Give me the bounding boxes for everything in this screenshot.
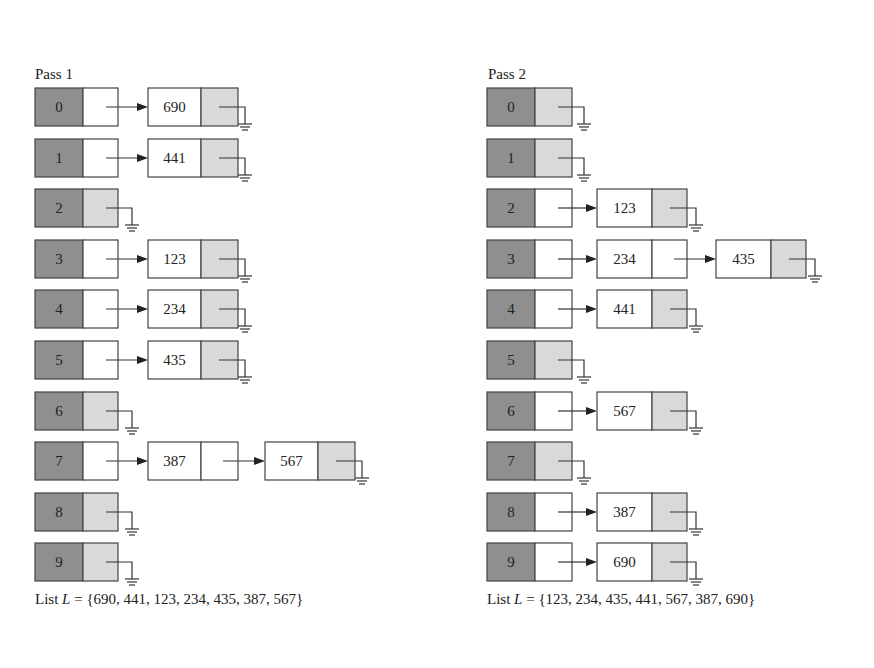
bucket-row-0: 0 (487, 88, 591, 130)
arrowhead-icon (137, 154, 148, 162)
bucket-row-1: 1 (487, 139, 591, 181)
bucket-index: 4 (55, 301, 63, 317)
bucket-row-5: 5435 (35, 341, 252, 383)
list-node: 234 (148, 290, 252, 332)
list-prefix: List (487, 591, 514, 607)
node-value: 567 (280, 453, 303, 469)
bucket-row-9: 9690 (487, 543, 703, 585)
arrowhead-icon (254, 457, 265, 465)
bucket-row-5: 5 (487, 341, 591, 383)
node-value: 690 (613, 554, 636, 570)
list-node: 441 (597, 290, 703, 332)
bucket-row-8: 8 (35, 493, 139, 535)
bucket-index: 6 (55, 403, 63, 419)
bucket-index: 7 (55, 453, 63, 469)
list-node: 690 (597, 543, 703, 585)
list-node: 567 (265, 442, 369, 484)
node-value: 567 (613, 403, 636, 419)
node-value: 441 (163, 150, 186, 166)
list-values: = {690, 441, 123, 234, 435, 387, 567} (74, 591, 303, 607)
node-value: 441 (613, 301, 636, 317)
bucket-index: 2 (507, 200, 515, 216)
bucket-index: 2 (55, 200, 63, 216)
bucket-index: 3 (507, 251, 515, 267)
bucket-index: 9 (507, 554, 515, 570)
list-node: 387 (597, 493, 703, 535)
bucket-index: 6 (507, 403, 515, 419)
bucket-index: 5 (507, 352, 515, 368)
arrowhead-icon (586, 204, 597, 212)
list-node: 435 (716, 240, 822, 282)
arrowhead-icon (586, 305, 597, 313)
list-node: 441 (148, 139, 252, 181)
list-node: 123 (148, 240, 252, 282)
arrowhead-icon (586, 508, 597, 516)
bucket-row-2: 2123 (487, 189, 703, 231)
bucket-row-9: 9 (35, 543, 139, 585)
bucket-row-6: 6567 (487, 392, 703, 434)
bucket-index: 5 (55, 352, 63, 368)
bucket-index: 0 (55, 99, 63, 115)
bucket-row-3: 3123 (35, 240, 252, 282)
node-value: 435 (732, 251, 755, 267)
bucket-row-1: 1441 (35, 139, 252, 181)
arrowhead-icon (137, 255, 148, 263)
bucket-index: 7 (507, 453, 515, 469)
node-value: 234 (613, 251, 636, 267)
node-value: 387 (613, 504, 636, 520)
node-value: 435 (163, 352, 186, 368)
list-node: 435 (148, 341, 252, 383)
arrowhead-icon (586, 558, 597, 566)
bucket-index: 4 (507, 301, 515, 317)
arrowhead-icon (137, 457, 148, 465)
bucket-row-4: 4234 (35, 290, 252, 332)
arrowhead-icon (586, 255, 597, 263)
bucket-row-8: 8387 (487, 493, 703, 535)
node-value: 123 (613, 200, 636, 216)
node-value: 123 (163, 251, 186, 267)
bucket-index: 9 (55, 554, 63, 570)
arrowhead-icon (586, 407, 597, 415)
bucket-row-6: 6 (35, 392, 139, 434)
pass-1-buckets: 0690144123123423454356738756789 (35, 88, 369, 585)
bucket-index: 0 (507, 99, 515, 115)
pass-2-list-result: List L = {123, 234, 435, 441, 567, 387, … (487, 591, 755, 607)
bucket-row-7: 7387567 (35, 442, 369, 484)
arrowhead-icon (137, 103, 148, 111)
bucket-row-0: 0690 (35, 88, 252, 130)
bucket-index: 3 (55, 251, 63, 267)
bucket-index: 8 (507, 504, 515, 520)
arrowhead-icon (137, 305, 148, 313)
list-variable: L (514, 591, 522, 607)
bucket-row-3: 3234435 (487, 240, 822, 282)
arrowhead-icon (705, 255, 716, 263)
bucket-index: 8 (55, 504, 63, 520)
radix-sort-bucket-diagram: 0690144123123423454356738756789012123323… (0, 0, 874, 668)
list-node: 567 (597, 392, 703, 434)
node-value: 387 (163, 453, 186, 469)
list-node: 690 (148, 88, 252, 130)
bucket-row-7: 7 (487, 442, 591, 484)
node-value: 234 (163, 301, 186, 317)
list-prefix: List (35, 591, 62, 607)
arrowhead-icon (137, 356, 148, 364)
pass-1-list-result: List L = {690, 441, 123, 234, 435, 387, … (35, 591, 303, 607)
node-value: 690 (163, 99, 186, 115)
bucket-row-2: 2 (35, 189, 139, 231)
bucket-row-4: 4441 (487, 290, 703, 332)
list-variable: L (62, 591, 70, 607)
list-node: 234 (597, 240, 687, 278)
bucket-index: 1 (507, 150, 515, 166)
bucket-index: 1 (55, 150, 63, 166)
list-values: = {123, 234, 435, 441, 567, 387, 690} (526, 591, 755, 607)
pass-2-buckets: 0121233234435444156567783879690 (487, 88, 822, 585)
list-node: 123 (597, 189, 703, 231)
